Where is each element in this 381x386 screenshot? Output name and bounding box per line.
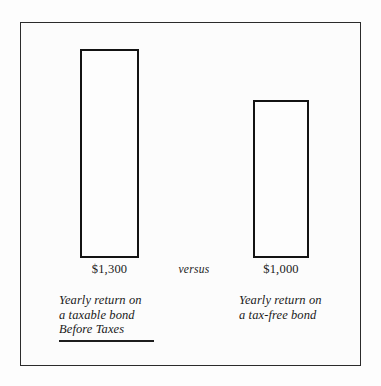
caption-tax-free-bond: Yearly return on a tax-free bond [239, 293, 322, 322]
figure-canvas: $1,300 versus $1,000 Yearly return on a … [0, 0, 381, 386]
caption-taxfree-line-2: a tax-free bond [239, 308, 322, 323]
versus-separator-label: versus [154, 263, 234, 275]
bar-taxable-bond [80, 49, 139, 258]
caption-taxable-line-2: a taxable bond [59, 308, 142, 323]
caption-taxable-line-3: Before Taxes [59, 322, 142, 337]
bar-tax-free-bond [253, 100, 309, 258]
bar-chart-plot-area: $1,300 versus $1,000 Yearly return on a … [21, 23, 362, 367]
figure-border: $1,300 versus $1,000 Yearly return on a … [20, 22, 361, 366]
caption-taxfree-line-1: Yearly return on [239, 293, 322, 308]
value-label-taxable-bond: $1,300 [80, 262, 139, 277]
caption-taxable-line-1: Yearly return on [59, 293, 142, 308]
caption-taxable-bond: Yearly return on a taxable bond Before T… [59, 293, 142, 337]
value-label-tax-free-bond: $1,000 [253, 262, 309, 277]
before-taxes-underline [59, 340, 154, 342]
